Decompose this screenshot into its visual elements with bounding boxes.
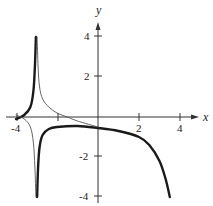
y-axis-arrow-icon [96,22,101,30]
y-tick-label: 2 [84,70,90,82]
x-axis-arrow-icon [191,115,199,120]
thin-curve [37,37,98,127]
y-tick-label: 4 [84,30,90,42]
thick-curve [37,126,170,197]
y-tick-label: -4 [79,190,89,202]
x-tick-label: -4 [11,122,21,134]
y-axis-label: y [95,3,102,17]
y-tick-label: -2 [79,150,88,162]
x-tick-label: 2 [136,122,142,134]
thick-curve [16,37,36,119]
function-graph: -4 2 4 4 2 -2 -4 x y [0,0,213,206]
x-axis-label: x [202,110,209,124]
x-tick-label: 4 [177,122,183,134]
